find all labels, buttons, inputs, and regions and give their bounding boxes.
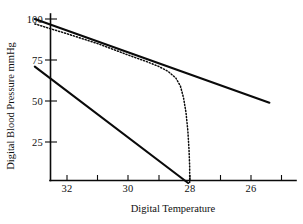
x-tick-label-26: 26: [246, 183, 257, 194]
series-dotted-curve: [35, 24, 190, 183]
y-axis-label: Digital Blood Pressure mmHg: [5, 42, 16, 169]
axes-group: [50, 14, 296, 181]
x-axis-label: Digital Temperature: [131, 203, 216, 214]
y-tick-label-75: 75: [18, 55, 43, 66]
x-tick-label-32: 32: [62, 183, 73, 194]
data-series-group: [35, 19, 270, 183]
x-tick-marks: [67, 175, 282, 181]
y-axis-label-container: Digital Blood Pressure mmHg: [2, 98, 18, 114]
x-tick-label-30: 30: [123, 183, 134, 194]
series-lower-solid-line: [35, 67, 188, 183]
plot-canvas: [0, 0, 303, 224]
y-tick-label-50: 50: [18, 96, 43, 107]
x-tick-label-28: 28: [185, 183, 196, 194]
series-upper-solid-line: [35, 19, 270, 103]
chart-figure: 32 30 28 26 100 75 50 25 Digital Tempera…: [0, 0, 303, 224]
y-tick-label-100: 100: [18, 14, 43, 25]
y-tick-label-25: 25: [18, 137, 43, 148]
